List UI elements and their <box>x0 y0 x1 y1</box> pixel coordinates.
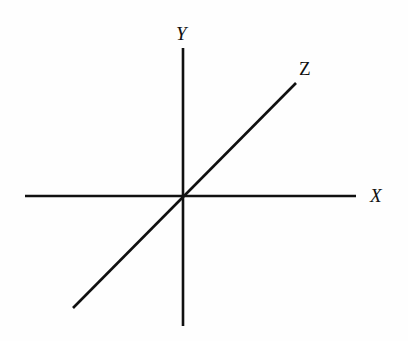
axes-drawing <box>0 0 408 341</box>
y-axis-label: Y <box>176 24 187 43</box>
coordinate-axes-figure: Y Z X <box>0 0 408 341</box>
x-axis-label: X <box>370 186 382 205</box>
z-axis-label: Z <box>299 59 311 78</box>
